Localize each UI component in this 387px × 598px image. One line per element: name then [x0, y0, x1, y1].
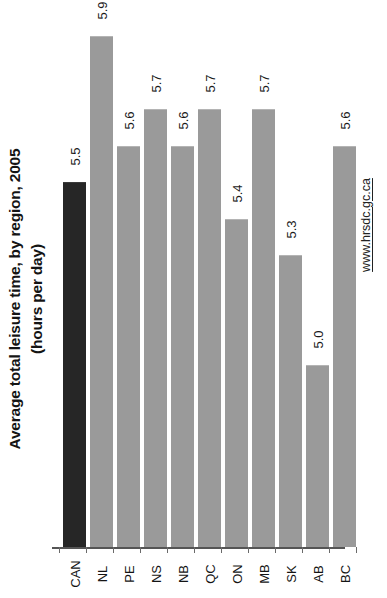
category-label-slot-on: ON [223, 552, 250, 598]
bar-value-label-ab: 5.0 [310, 330, 325, 348]
category-label-qc: QC [202, 564, 217, 584]
category-label-slot-ns: NS [142, 552, 169, 598]
bar-slot-nb: 5.6 [169, 0, 196, 547]
chart-title-line-1: Average total leisure time, by region, 2… [6, 149, 23, 450]
chart-title: Average total leisure time, by region, 2… [4, 19, 49, 579]
source-url-link[interactable]: www.hrsdc.gc.ca [359, 178, 373, 272]
category-label-can: CAN [67, 560, 82, 587]
category-label-mb: MB [256, 564, 271, 584]
bar-value-label-nl: 5.9 [94, 1, 109, 19]
bar-value-label-mb: 5.7 [256, 74, 271, 92]
bar-slot-on: 5.4 [223, 0, 250, 547]
category-label-slot-qc: QC [196, 552, 223, 598]
category-label-pe: PE [121, 565, 136, 582]
plot-area: 5.55.95.65.75.65.75.45.75.35.05.6 CANNLP… [52, 0, 345, 598]
bar-slot-pe: 5.6 [115, 0, 142, 547]
bar-value-label-ns: 5.7 [148, 74, 163, 92]
bar-slot-ab: 5.0 [304, 0, 331, 547]
category-label-ns: NS [148, 565, 163, 583]
bar-series: 5.55.95.65.75.65.75.45.75.35.05.6 [52, 0, 345, 547]
category-axis-labels: CANNLPENSNBQCONMBSKABBC [52, 552, 345, 598]
bar-slot-qc: 5.7 [196, 0, 223, 547]
category-label-nb: NB [175, 565, 190, 583]
bar-value-label-nb: 5.6 [175, 111, 190, 129]
bar-slot-sk: 5.3 [277, 0, 304, 547]
bar-qc[interactable] [198, 109, 221, 547]
category-label-ab: AB [310, 565, 325, 582]
category-label-nl: NL [94, 566, 109, 583]
bar-value-label-can: 5.5 [67, 147, 82, 165]
bar-mb[interactable] [252, 109, 275, 547]
bar-value-label-sk: 5.3 [283, 220, 298, 238]
category-label-slot-ab: AB [304, 552, 331, 598]
category-label-slot-can: CAN [61, 552, 88, 598]
bar-value-label-pe: 5.6 [121, 111, 136, 129]
bar-ns[interactable] [144, 109, 167, 547]
category-label-slot-nl: NL [88, 552, 115, 598]
bar-slot-nl: 5.9 [88, 0, 115, 547]
bar-nb[interactable] [171, 146, 194, 547]
chart-subtitle: (hours per day) [26, 19, 48, 579]
category-label-sk: SK [283, 565, 298, 582]
category-label-slot-sk: SK [277, 552, 304, 598]
bar-slot-mb: 5.7 [250, 0, 277, 547]
bar-can[interactable] [63, 182, 86, 547]
chart-title-block: Average total leisure time, by region, 2… [0, 0, 52, 598]
bar-sk[interactable] [279, 255, 302, 547]
bar-value-label-qc: 5.7 [202, 74, 217, 92]
category-label-on: ON [229, 564, 244, 584]
bar-slot-can: 5.5 [61, 0, 88, 547]
bar-value-label-on: 5.4 [229, 184, 244, 202]
category-label-slot-mb: MB [250, 552, 277, 598]
bar-pe[interactable] [117, 146, 140, 547]
bar-ab[interactable] [306, 365, 329, 547]
bar-on[interactable] [225, 219, 248, 547]
category-label-slot-nb: NB [169, 552, 196, 598]
category-label-slot-pe: PE [115, 552, 142, 598]
bar-slot-ns: 5.7 [142, 0, 169, 547]
chart-figure: Average total leisure time, by region, 2… [0, 0, 387, 598]
bar-nl[interactable] [90, 36, 113, 547]
source-block: www.hrsdc.gc.ca [345, 0, 387, 598]
